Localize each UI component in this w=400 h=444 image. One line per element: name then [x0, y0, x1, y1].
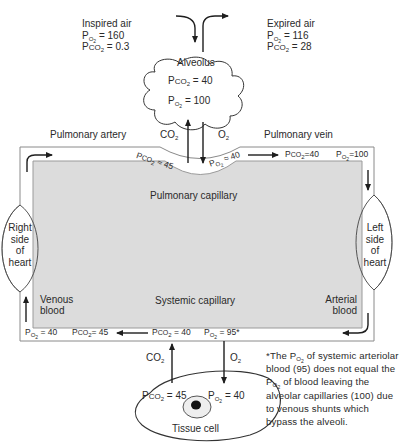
venous-blood-label: Venousblood	[40, 294, 73, 316]
left-heart-label: Left side of heart	[357, 222, 393, 268]
venous-po2: PO2 = 40	[25, 328, 57, 337]
inspired-air-arrow	[176, 16, 195, 42]
arterial-po2: PO2 = 95*	[204, 328, 240, 337]
expired-air-pco2: PCO2 = 28	[267, 41, 312, 53]
expired-air-title: Expired air	[267, 18, 315, 29]
alveolus-po2: PO2 = 100	[168, 95, 210, 106]
tissue-pco2: PCO2 = 45	[142, 390, 187, 402]
pulmonary-vein-pco2: PCO2=40	[285, 150, 319, 159]
footnote: *The PO2 of systemic arteriolar blood (9…	[266, 349, 400, 428]
pulmonary-vein-po2: PO2=100	[336, 150, 368, 159]
tissue-cell-title: Tissue cell	[172, 423, 219, 434]
inspired-air-po2: PO2 = 160	[82, 30, 124, 41]
alveolus-cloud	[144, 57, 244, 130]
right-heart-label: Right side of heart	[2, 222, 38, 268]
systemic-capillary-label: Systemic capillary	[155, 295, 235, 306]
arterial-blood-label: Arterialblood	[322, 294, 357, 316]
alveolus-title: Alveolus	[177, 57, 215, 68]
inspired-air-title: Inspired air	[82, 18, 131, 29]
expired-air-arrow	[203, 16, 228, 52]
expired-air-po2: PO2 = 116	[267, 30, 308, 41]
alveolus-pco2: PCO2 = 40	[168, 75, 213, 87]
lung-co2-label: CO2	[160, 129, 178, 140]
cell-nucleus-inner	[191, 401, 201, 410]
tissue-o2-label: O2	[230, 352, 241, 363]
arterial-pco2: PCO2 = 40	[152, 328, 191, 337]
tissue-co2-label: CO2	[146, 352, 164, 363]
pulmonary-capillary-label: Pulmonary capillary	[150, 190, 237, 201]
tissue-po2: PO2 = 40	[208, 390, 245, 401]
lung-o2-label: O2	[218, 129, 229, 140]
pulmonary-vein-label: Pulmonary vein	[264, 129, 333, 140]
inspired-air-pco2: PCO2 = 0.3	[82, 41, 129, 53]
venous-pco2: PCO2= 45	[72, 328, 108, 337]
pulmonary-artery-label: Pulmonary artery	[50, 129, 126, 140]
